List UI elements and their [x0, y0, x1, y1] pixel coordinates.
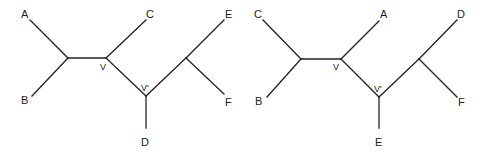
edge-b	[32, 58, 68, 96]
edge-v-vprime	[106, 58, 146, 96]
edge-a	[341, 21, 379, 59]
edge-f	[419, 59, 457, 97]
leaf-label-bottom-right: F	[225, 96, 232, 108]
node-label-v-prime: V'	[141, 83, 149, 93]
node-label-v-prime: V'	[374, 84, 382, 94]
leaf-label-top-middle: C	[146, 8, 154, 20]
edge-c	[106, 20, 146, 58]
leaf-label-bottom-left: B	[255, 95, 262, 107]
right-tree: C B A E D F V V'	[254, 8, 465, 148]
leaf-label-top-right: E	[225, 8, 232, 20]
leaf-label-top-left: A	[21, 8, 29, 20]
leaf-label-top-right: D	[457, 8, 465, 20]
edge-f	[186, 58, 224, 94]
tree-diagrams: A B C D E F V V' C B A E D F V V'	[0, 0, 481, 154]
edge-e	[186, 20, 224, 58]
edge-internal-2	[379, 59, 419, 97]
leaf-label-top-middle: A	[380, 8, 388, 20]
leaf-label-top-left: C	[254, 8, 262, 20]
left-tree: A B C D E F V V'	[21, 8, 232, 148]
leaf-label-bottom-right: F	[458, 96, 465, 108]
edge-internal-2	[146, 58, 186, 96]
leaf-label-bottom-middle: D	[141, 136, 149, 148]
edge-a	[30, 20, 68, 58]
edge-b	[267, 59, 301, 97]
node-label-v: V	[333, 62, 339, 72]
edge-c	[263, 20, 301, 59]
leaf-label-bottom-middle: E	[375, 136, 382, 148]
edge-d	[419, 20, 457, 59]
leaf-label-bottom-left: B	[21, 94, 28, 106]
node-label-v: V	[100, 62, 106, 72]
